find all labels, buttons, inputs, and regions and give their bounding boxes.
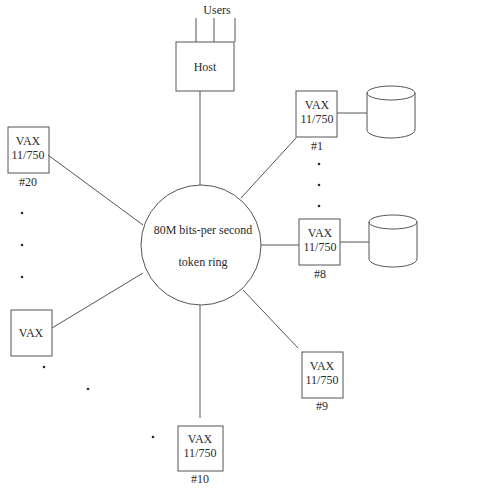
node-10-name: VAX <box>188 432 213 446</box>
node-10-id: #10 <box>191 472 209 486</box>
node-20-model: 11/750 <box>12 148 45 162</box>
link-n1 <box>241 138 296 198</box>
node-1-name: VAX <box>305 98 330 112</box>
node-9-id: #9 <box>316 399 328 413</box>
disk-icon <box>369 215 417 267</box>
ellipsis-dots <box>21 163 321 439</box>
link-n9 <box>243 290 298 348</box>
node-vax-name: VAX <box>19 326 44 340</box>
node-9-name: VAX <box>310 359 335 373</box>
node-10-model: 11/750 <box>184 446 217 460</box>
ring-label-line1: 80M bits-per second <box>154 223 253 237</box>
node-8-model: 11/750 <box>304 240 337 254</box>
token-ring-circle <box>141 185 261 305</box>
link-n20 <box>48 155 143 225</box>
node-9-model: 11/750 <box>306 373 339 387</box>
node-1-model: 11/750 <box>301 112 334 126</box>
link-nvax <box>52 273 143 328</box>
node-1-id: #1 <box>311 139 323 153</box>
disk-icon <box>367 86 415 138</box>
node-20-id: #20 <box>19 175 37 189</box>
node-8-id: #8 <box>314 267 326 281</box>
ring-label-line2: token ring <box>179 255 228 269</box>
node-20-name: VAX <box>16 134 41 148</box>
node-8-name: VAX <box>308 226 333 240</box>
token-ring-diagram: Users Host 80M bits-per second token rin… <box>0 0 483 490</box>
host-label: Host <box>194 60 217 74</box>
users-label: Users <box>203 3 231 17</box>
